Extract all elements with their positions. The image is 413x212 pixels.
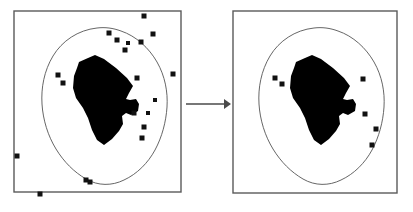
marker bbox=[123, 48, 128, 53]
figure-container: Outlier removal on a spatial point set bbox=[0, 0, 413, 212]
marker bbox=[15, 154, 20, 159]
marker bbox=[153, 98, 157, 102]
marker bbox=[151, 32, 156, 37]
marker bbox=[361, 77, 366, 82]
marker bbox=[374, 127, 379, 132]
marker bbox=[126, 41, 130, 45]
marker bbox=[38, 192, 43, 197]
transform-arrow bbox=[186, 99, 231, 109]
marker bbox=[142, 125, 147, 130]
marker bbox=[273, 76, 278, 81]
marker bbox=[61, 81, 66, 86]
marker bbox=[370, 143, 375, 148]
marker bbox=[132, 111, 137, 116]
marker bbox=[142, 14, 147, 19]
figure-canvas bbox=[0, 0, 413, 212]
marker bbox=[135, 76, 140, 81]
marker bbox=[139, 40, 144, 45]
transform-arrow-head bbox=[224, 99, 231, 109]
marker bbox=[171, 72, 176, 77]
marker bbox=[88, 180, 93, 185]
marker bbox=[56, 73, 61, 78]
marker bbox=[146, 111, 150, 115]
marker bbox=[363, 112, 368, 117]
right-panel[interactable] bbox=[233, 11, 397, 193]
left-panel[interactable] bbox=[14, 11, 181, 197]
marker bbox=[140, 136, 145, 141]
marker bbox=[107, 31, 112, 36]
marker bbox=[280, 82, 285, 87]
marker bbox=[115, 38, 120, 43]
